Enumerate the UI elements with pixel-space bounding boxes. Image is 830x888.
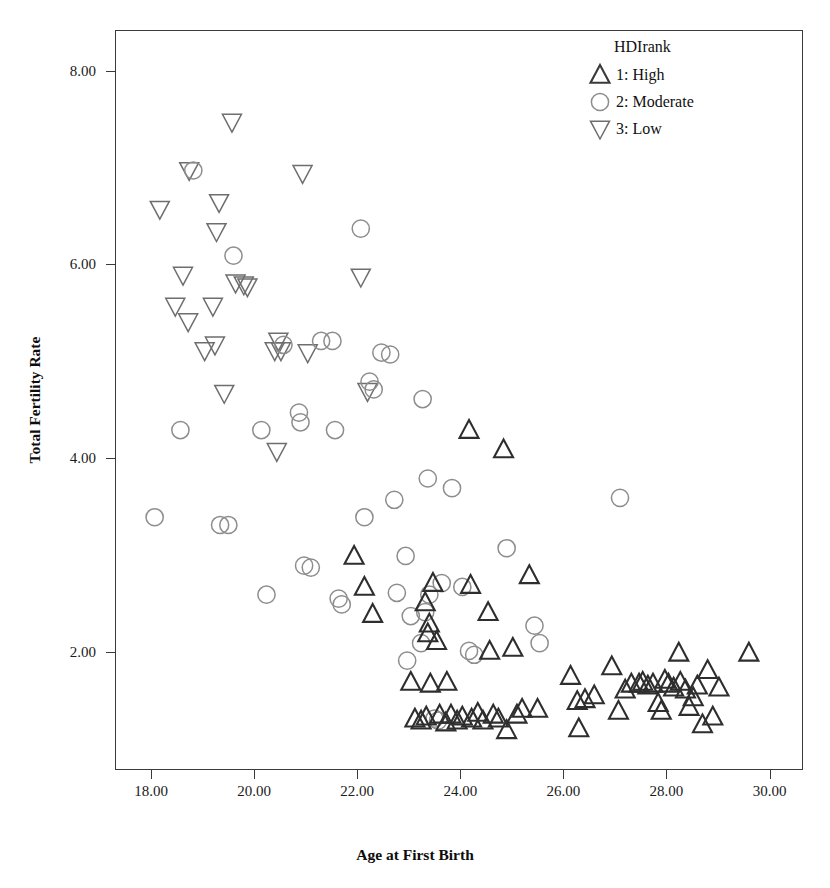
data-point (460, 642, 477, 659)
x-tick-label: 18.00 (134, 783, 168, 800)
x-tick (254, 770, 255, 779)
data-point (420, 614, 439, 632)
data-points-layer (116, 31, 804, 771)
y-tick (106, 71, 115, 72)
data-point (215, 385, 234, 403)
legend-entry-3[interactable]: 3: Low (588, 115, 788, 142)
y-tick-label: 2.00 (0, 643, 96, 660)
y-tick (106, 264, 115, 265)
x-tick-label: 30.00 (753, 783, 787, 800)
data-point (253, 421, 270, 438)
data-point (414, 390, 431, 407)
data-point (399, 652, 416, 669)
data-point (498, 540, 515, 557)
x-tick (357, 770, 358, 779)
data-point (356, 509, 373, 526)
x-tick-label: 26.00 (546, 783, 580, 800)
data-point (531, 635, 548, 652)
data-point (569, 718, 588, 736)
x-tick (460, 770, 461, 779)
data-point (210, 195, 229, 213)
triangle-down-icon (588, 118, 612, 140)
data-point (222, 114, 241, 132)
data-point (494, 439, 513, 457)
data-point (401, 672, 420, 690)
series-circle (146, 162, 629, 729)
data-point (293, 166, 312, 184)
data-point (419, 470, 436, 487)
data-point (709, 678, 728, 696)
data-point (397, 547, 414, 564)
data-point (150, 201, 169, 219)
data-point (609, 701, 628, 719)
data-point (207, 224, 226, 242)
legend-label: 2: Moderate (616, 93, 694, 111)
x-tick-label: 20.00 (237, 783, 271, 800)
data-point (173, 267, 192, 285)
data-point (324, 332, 341, 349)
data-point (258, 586, 275, 603)
data-point (292, 414, 309, 431)
legend-entry-2[interactable]: 2: Moderate (588, 88, 788, 115)
y-tick-label: 8.00 (0, 62, 96, 79)
data-point (611, 489, 628, 506)
data-point (520, 565, 539, 583)
data-point (345, 546, 364, 564)
y-tick (106, 652, 115, 653)
legend: HDIrank 1: High2: Moderate3: Low (588, 38, 788, 142)
data-point (443, 480, 460, 497)
legend-title: HDIrank (614, 38, 788, 56)
triangle-up-icon (588, 64, 612, 86)
x-tick (151, 770, 152, 779)
x-tick-label: 22.00 (340, 783, 374, 800)
data-point (355, 577, 374, 595)
data-point (693, 715, 712, 733)
data-point (172, 421, 189, 438)
y-tick (106, 458, 115, 459)
data-point (352, 220, 369, 237)
data-point (602, 656, 621, 674)
data-point (479, 602, 498, 620)
series-triangle-up (345, 420, 759, 738)
x-tick-label: 28.00 (650, 783, 684, 800)
circle-icon (588, 91, 612, 113)
data-point (195, 343, 214, 361)
y-axis-title: Total Fertility Rate (20, 235, 50, 565)
legend-label: 3: Low (616, 120, 662, 138)
data-point (333, 596, 350, 613)
x-tick (666, 770, 667, 779)
data-point (302, 559, 319, 576)
data-point (185, 162, 202, 179)
x-axis-title: Age at First Birth (0, 846, 830, 864)
data-point (146, 509, 163, 526)
data-point (466, 646, 483, 663)
data-point (739, 643, 758, 661)
data-point (437, 672, 456, 690)
data-point (225, 247, 242, 264)
x-tick (563, 770, 564, 779)
data-point (561, 666, 580, 684)
data-point (179, 314, 198, 332)
data-point (460, 420, 479, 438)
data-point (203, 298, 222, 316)
scatter-plot-figure: 18.0020.0022.0024.0026.0028.0030.00 2.00… (0, 0, 830, 888)
data-point (526, 617, 543, 634)
x-tick (770, 770, 771, 779)
data-point (388, 584, 405, 601)
legend-label: 1: High (616, 66, 664, 84)
legend-entry-1[interactable]: 1: High (588, 61, 788, 88)
data-point (351, 269, 370, 287)
x-tick-label: 24.00 (443, 783, 477, 800)
series-triangle-down (150, 114, 377, 461)
data-point (205, 337, 224, 355)
data-point (326, 421, 343, 438)
data-point (698, 660, 717, 678)
data-point (298, 345, 317, 363)
data-point (503, 638, 522, 656)
data-point (669, 643, 688, 661)
data-point (386, 491, 403, 508)
data-point (267, 444, 286, 462)
data-point (363, 604, 382, 622)
